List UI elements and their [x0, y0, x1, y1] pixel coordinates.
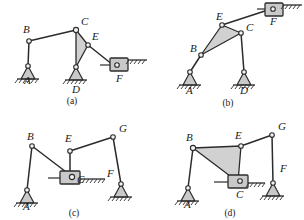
link-ab	[188, 148, 193, 188]
joint-label-f: F	[269, 15, 277, 27]
link-bc	[29, 30, 76, 41]
pivot-b	[27, 39, 32, 44]
joint-label-g: G	[278, 120, 286, 132]
pivot-f	[271, 7, 276, 12]
figure-root: A B C D E F (a)	[0, 0, 304, 220]
pivot-f	[271, 181, 276, 186]
link-ef	[222, 10, 268, 25]
pivot-f	[115, 63, 120, 68]
joint-label-c: C	[236, 188, 244, 200]
pivot-e	[220, 23, 225, 28]
joint-label-d: D	[71, 83, 80, 95]
pivot-e	[68, 149, 73, 154]
joint-label-e: E	[64, 132, 72, 144]
pivot-a	[25, 188, 30, 193]
joint-label-g: G	[119, 122, 127, 134]
ternary-link-cde	[76, 30, 88, 67]
slider-f	[257, 3, 302, 16]
joint-label-c: C	[77, 173, 85, 185]
panel-caption-b: (b)	[222, 98, 233, 109]
link-ab	[28, 41, 29, 66]
pivot-d	[242, 70, 247, 75]
pivot-c	[239, 31, 244, 36]
joint-label-d: D	[239, 84, 248, 96]
panel-caption-c: (c)	[69, 208, 80, 219]
pivot-e	[239, 144, 244, 149]
link-ab	[27, 146, 32, 190]
joint-label-b: B	[27, 130, 34, 142]
link-eg	[241, 135, 272, 146]
joint-label-a: A	[23, 74, 31, 86]
joint-label-f: F	[115, 72, 123, 84]
panel-c-svg: A B C E F G (c)	[0, 110, 152, 220]
joint-label-b: B	[23, 23, 30, 35]
panel-caption-a: (a)	[67, 96, 78, 107]
joint-label-c: C	[81, 15, 89, 27]
mechanism-panel-a: A B C D E F (a)	[0, 0, 152, 110]
joint-label-a: A	[183, 198, 191, 210]
joint-label-f: F	[106, 167, 114, 179]
ternary-link-bec	[201, 25, 241, 55]
pivot-f	[119, 182, 124, 187]
pivot-g	[270, 133, 275, 138]
pivot-a	[186, 186, 191, 191]
joint-label-e: E	[91, 30, 99, 42]
joint-label-b: B	[190, 42, 197, 54]
link-cd	[241, 33, 244, 72]
pivot-c	[73, 27, 78, 32]
panel-d-svg: A B C E F G (d)	[152, 110, 304, 220]
pivot-b	[190, 145, 195, 150]
mechanism-panel-c: A B C E F G (c)	[0, 110, 152, 220]
pivot-b	[30, 144, 35, 149]
link-ab	[190, 55, 201, 72]
joint-label-c: C	[246, 21, 254, 33]
panel-a-svg: A B C D E F (a)	[0, 0, 152, 110]
mechanism-panel-b: A B C D E F (b)	[152, 0, 304, 110]
joint-label-a: A	[185, 84, 193, 96]
pivot-a	[26, 64, 31, 69]
pivot-e	[86, 43, 91, 48]
link-gf	[272, 135, 273, 183]
pivot-a	[188, 70, 193, 75]
link-eg	[70, 137, 113, 151]
pivot-c	[238, 179, 243, 184]
joint-label-e: E	[234, 129, 242, 141]
pivot-d	[74, 65, 79, 70]
pivot-c	[69, 174, 74, 179]
link-gf	[113, 137, 121, 184]
joint-label-f: F	[279, 162, 287, 174]
panel-b-svg: A B C D E F (b)	[152, 0, 304, 110]
panel-caption-d: (d)	[224, 208, 235, 219]
joint-label-b: B	[186, 131, 193, 143]
joint-label-e: E	[215, 10, 223, 22]
link-ef	[88, 45, 113, 65]
pivot-g	[111, 135, 116, 140]
pivot-b	[199, 53, 204, 58]
joint-label-a: A	[22, 200, 30, 212]
mechanism-panel-d: A B C E F G (d)	[152, 110, 304, 220]
